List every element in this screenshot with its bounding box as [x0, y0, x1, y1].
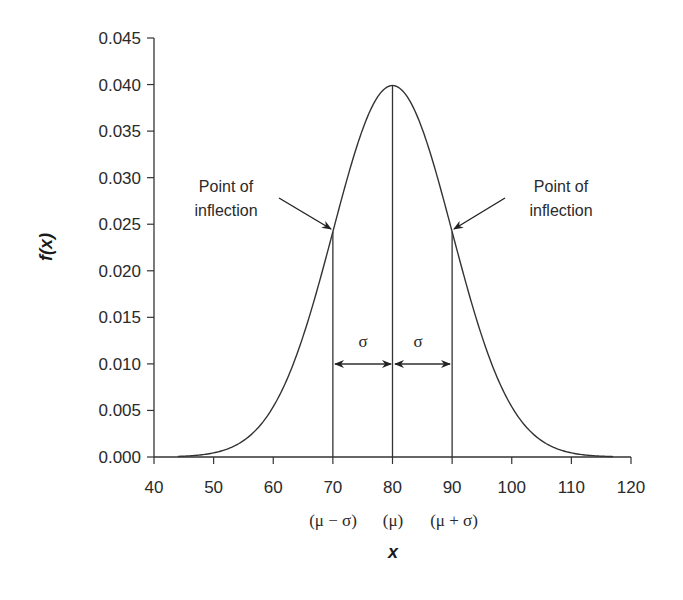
- y-tick-label: 0.045: [98, 29, 141, 48]
- y-axis-title: f(x): [36, 233, 56, 261]
- y-axis: 0.0000.0050.0100.0150.0200.0250.0300.035…: [98, 29, 154, 467]
- inflection-label-line2: inflection: [529, 202, 592, 219]
- mu-label: (μ): [383, 511, 403, 530]
- y-tick-label: 0.010: [98, 355, 141, 374]
- normal-distribution-chart: 0.0000.0050.0100.0150.0200.0250.0300.035…: [0, 0, 683, 600]
- x-tick-label: 100: [498, 478, 526, 497]
- x-tick-label: 40: [145, 478, 164, 497]
- inflection-arrow-right: [454, 198, 505, 229]
- x-tick-label: 80: [383, 478, 402, 497]
- x-axis-title: x: [387, 542, 399, 562]
- y-tick-label: 0.005: [98, 401, 141, 420]
- y-tick-label: 0.040: [98, 76, 141, 95]
- y-tick-label: 0.030: [98, 169, 141, 188]
- x-axis: 405060708090100110120: [145, 457, 646, 497]
- y-tick-label: 0.020: [98, 262, 141, 281]
- y-tick-label: 0.015: [98, 308, 141, 327]
- mu-sigma-labels: (μ − σ) (μ) (μ + σ): [309, 511, 478, 530]
- reference-lines: [333, 86, 452, 457]
- y-tick-label: 0.000: [98, 448, 141, 467]
- y-tick-label: 0.035: [98, 122, 141, 141]
- inflection-label-line1: Point of: [199, 178, 254, 195]
- x-tick-label: 70: [323, 478, 342, 497]
- inflection-annotation-left: Point of inflection: [194, 178, 331, 229]
- x-tick-label: 90: [443, 478, 462, 497]
- x-tick-label: 60: [264, 478, 283, 497]
- mu-minus-sigma-label: (μ − σ): [309, 511, 357, 530]
- density-curve: [178, 86, 613, 457]
- inflection-annotation-right: Point of inflection: [454, 178, 593, 229]
- inflection-label-line2: inflection: [194, 202, 257, 219]
- inflection-label-line1: Point of: [534, 178, 589, 195]
- mu-plus-sigma-label: (μ + σ): [430, 511, 478, 530]
- x-tick-label: 110: [558, 478, 585, 497]
- x-tick-label: 120: [617, 478, 645, 497]
- inflection-arrow-left: [279, 198, 331, 229]
- x-tick-label: 50: [204, 478, 223, 497]
- y-tick-label: 0.025: [98, 215, 141, 234]
- sigma-label-left: σ: [358, 332, 367, 351]
- sigma-label-right: σ: [413, 332, 422, 351]
